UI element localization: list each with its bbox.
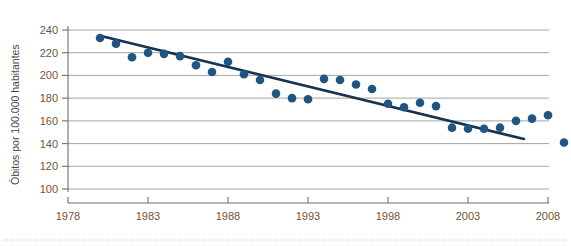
data-point <box>240 70 249 79</box>
chart-container: Óbitos por 100.000 habitantes <box>0 0 571 246</box>
x-tick-label-1978: 1978 <box>56 210 80 222</box>
x-tick-label-2003: 2003 <box>456 210 480 222</box>
data-point <box>128 53 137 62</box>
data-point <box>560 138 569 147</box>
data-point <box>432 102 441 111</box>
data-point <box>448 123 457 132</box>
data-point <box>208 68 217 77</box>
data-point <box>400 103 409 112</box>
data-point <box>192 61 201 70</box>
y-tick-label-220: 220 <box>40 47 58 59</box>
data-point <box>480 125 489 134</box>
mortality-scatter-chart: Óbitos por 100.000 habitantes <box>0 0 571 246</box>
data-point <box>496 123 505 132</box>
x-tick-label-1983: 1983 <box>136 210 160 222</box>
y-tick-label-100: 100 <box>40 183 58 195</box>
data-point <box>160 50 169 59</box>
data-point <box>368 85 377 94</box>
data-point <box>384 100 393 109</box>
x-tick-label-1988: 1988 <box>216 210 240 222</box>
x-tick-label-2008: 2008 <box>536 210 560 222</box>
data-point <box>288 94 297 103</box>
y-tick-label-120: 120 <box>40 160 58 172</box>
data-point <box>528 114 537 123</box>
data-point <box>256 76 265 85</box>
y-tick-label-180: 180 <box>40 92 58 104</box>
y-tick-label-160: 160 <box>40 115 58 127</box>
data-point <box>352 80 361 89</box>
y-tick-label-200: 200 <box>40 69 58 81</box>
data-point <box>336 76 345 85</box>
y-tick-label-140: 140 <box>40 138 58 150</box>
data-point <box>464 125 473 134</box>
data-point <box>544 111 553 120</box>
data-point <box>320 75 329 84</box>
data-point <box>96 34 105 43</box>
x-tick-label-1993: 1993 <box>296 210 320 222</box>
data-point <box>176 52 185 61</box>
chart-background <box>0 0 571 246</box>
data-point <box>112 39 121 48</box>
data-point <box>144 48 153 57</box>
y-axis-label: Óbitos por 100.000 habitantes <box>9 44 21 185</box>
data-point <box>416 98 425 107</box>
x-tick-label-1998: 1998 <box>376 210 400 222</box>
y-axis-label-text: Óbitos por 100.000 habitantes <box>9 44 21 185</box>
y-tick-label-240: 240 <box>40 24 58 36</box>
data-point <box>272 89 281 98</box>
data-point <box>512 117 521 126</box>
data-point <box>304 95 313 104</box>
data-point <box>224 58 233 67</box>
